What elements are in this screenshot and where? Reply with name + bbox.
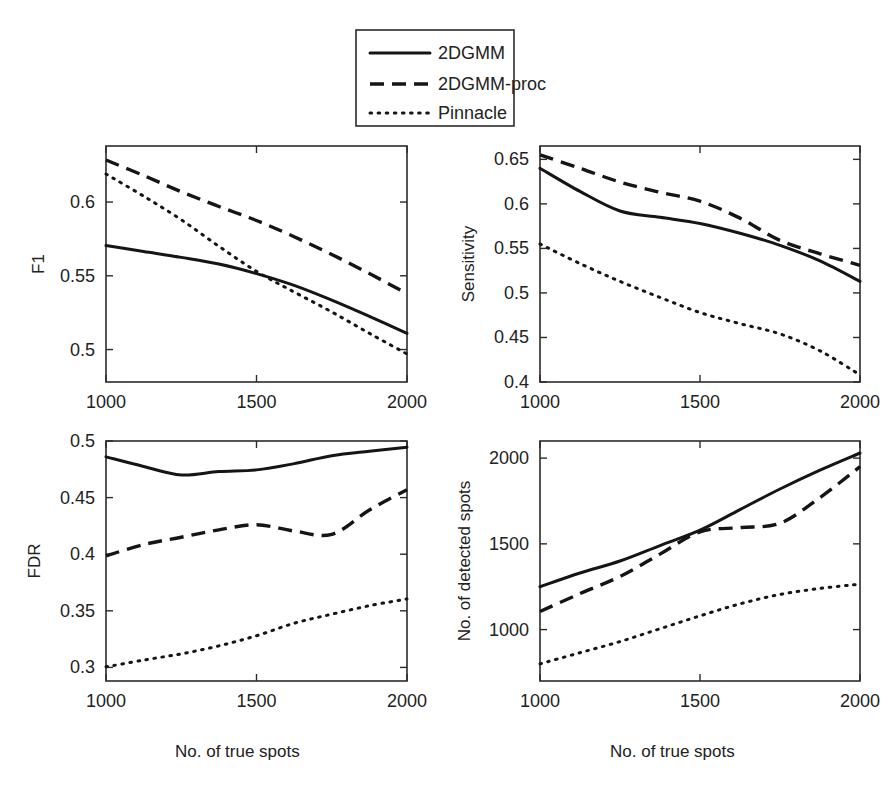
series-line-2dgmm <box>540 168 860 281</box>
y-tick-label: 0.5 <box>504 283 529 303</box>
y-tick-label: 0.55 <box>494 238 529 258</box>
legend-label-pinnacle: Pinnacle <box>438 103 507 123</box>
x-tick-label: 1000 <box>86 691 126 711</box>
x-tick-label: 1000 <box>86 392 126 412</box>
y-tick-label: 1500 <box>489 534 529 554</box>
plot-frame <box>540 441 860 681</box>
y-tick-label: 0.45 <box>494 327 529 347</box>
y-tick-label: 0.4 <box>70 544 95 564</box>
series-line-2dgmm-proc <box>540 155 860 265</box>
x-tick-label: 1000 <box>520 691 560 711</box>
plot-frame <box>106 441 407 681</box>
series-line-2dgmm <box>540 453 860 587</box>
plot-frame <box>106 146 407 382</box>
y-tick-label: 2000 <box>489 448 529 468</box>
xaxis-title-left: No. of true spots <box>175 742 300 761</box>
series-line-pinnacle <box>106 599 407 667</box>
y-tick-label: 0.55 <box>60 266 95 286</box>
x-tick-label: 2000 <box>840 392 880 412</box>
x-tick-label: 1500 <box>680 392 720 412</box>
series-line-2dgmm <box>106 447 407 475</box>
y-tick-label: 0.35 <box>60 601 95 621</box>
multi-panel-line-chart: 2DGMM 2DGMM-proc Pinnacle 0.50.550.61000… <box>0 0 896 788</box>
yaxis-title: FDR <box>25 544 44 579</box>
x-tick-label: 2000 <box>387 392 427 412</box>
figure-container: 2DGMM 2DGMM-proc Pinnacle 0.50.550.61000… <box>0 0 896 788</box>
series-line-pinnacle <box>540 584 860 664</box>
x-tick-label: 2000 <box>840 691 880 711</box>
panel-f1: 0.50.550.6100015002000F1 <box>29 146 427 412</box>
legend-label-2dgmm: 2DGMM <box>438 43 505 63</box>
x-tick-label: 1500 <box>680 691 720 711</box>
y-tick-label: 0.45 <box>60 488 95 508</box>
xaxis-title-right: No. of true spots <box>610 742 735 761</box>
y-tick-label: 0.4 <box>504 372 529 392</box>
y-tick-label: 0.5 <box>70 431 95 451</box>
series-line-2dgmm-proc <box>106 490 407 556</box>
legend-label-2dgmm-proc: 2DGMM-proc <box>438 74 546 94</box>
yaxis-title: Sensitivity <box>459 225 478 302</box>
y-tick-label: 0.6 <box>504 194 529 214</box>
x-tick-label: 2000 <box>387 691 427 711</box>
series-line-pinnacle <box>540 244 860 375</box>
y-tick-label: 1000 <box>489 620 529 640</box>
yaxis-title: No. of detected spots <box>455 481 474 642</box>
series-line-2dgmm <box>106 246 407 334</box>
x-tick-label: 1500 <box>236 392 276 412</box>
series-line-pinnacle <box>106 174 407 354</box>
y-tick-label: 0.65 <box>494 149 529 169</box>
x-tick-label: 1000 <box>520 392 560 412</box>
panel-fdr: 0.30.350.40.450.5100015002000FDR <box>25 431 427 711</box>
panel-detected-spots: 100015002000100015002000No. of detected … <box>455 441 880 711</box>
y-tick-label: 0.3 <box>70 657 95 677</box>
yaxis-title: F1 <box>29 254 48 274</box>
y-tick-label: 0.6 <box>70 192 95 212</box>
panel-sensitivity: 0.40.450.50.550.60.65100015002000Sensiti… <box>459 146 880 412</box>
legend: 2DGMM 2DGMM-proc Pinnacle <box>356 30 546 126</box>
y-tick-label: 0.5 <box>70 340 95 360</box>
x-tick-label: 1500 <box>236 691 276 711</box>
